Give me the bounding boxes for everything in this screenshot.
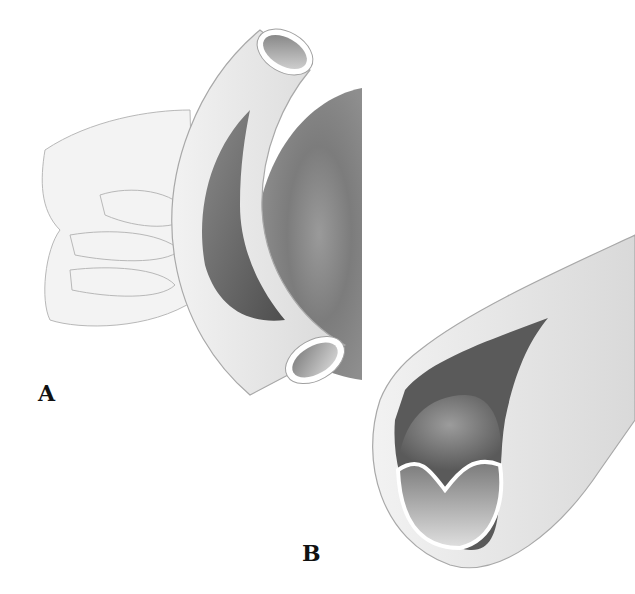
illustration [0, 0, 635, 594]
figure: A B [0, 0, 635, 594]
panel-label-a: A [38, 380, 55, 406]
panel-label-b: B [302, 540, 321, 566]
panel-b-vessel [373, 235, 635, 568]
